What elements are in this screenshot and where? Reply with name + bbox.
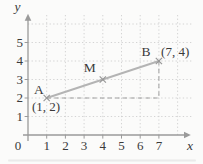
x-tick-label: 4 [100,138,107,153]
coordinate-plane: 0123456712345xyA(1, 2)MB(7, 4) [0,0,203,164]
y-tick-label: 1 [17,109,24,124]
origin-label: 0 [15,138,22,153]
coordinate-plane-figure: 0123456712345xyA(1, 2)MB(7, 4) [0,0,203,164]
point-coord-label-A: (1, 2) [32,99,60,114]
x-tick-label: 7 [156,138,163,153]
y-axis-label: y [13,0,21,14]
y-tick-label: 3 [17,72,24,87]
point-label-M: M [84,60,96,75]
x-tick-label: 5 [118,138,125,153]
point-coord-label-B: (7, 4) [161,44,189,59]
x-tick-label: 6 [137,138,144,153]
x-axis-label: x [186,138,193,153]
x-tick-label: 1 [43,138,50,153]
x-tick-label: 3 [81,138,88,153]
y-tick-label: 4 [17,53,24,68]
y-tick-label: 2 [17,90,24,105]
point-label-A: A [34,82,44,97]
point-label-B: B [141,44,150,59]
y-tick-label: 5 [17,35,24,50]
page-edge-shadow [8,160,196,162]
x-tick-label: 2 [62,138,69,153]
